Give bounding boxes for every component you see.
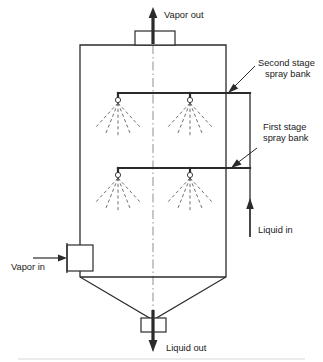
first-stage-spray-fan-1 (95, 178, 141, 211)
spray-tower-schematic: Vapor out Liquid out Vapor in Liquid in (0, 0, 323, 362)
liquid-out-arrow-head (149, 340, 158, 352)
liquid-out-label: Liquid out (166, 343, 207, 353)
liquid-in-label: Liquid in (258, 225, 293, 235)
vapor-in-label: Vapor in (11, 262, 45, 272)
second-stage-spray-fan-2 (167, 103, 213, 136)
first-stage-spray-nozzle-1 (115, 172, 120, 177)
second-stage-spray-nozzle-2 (187, 97, 192, 102)
spray-tower-diagram: Vapor out Liquid out Vapor in Liquid in (0, 0, 323, 362)
second-stage-label-line2: spray bank (265, 69, 311, 79)
vapor-in-arrow-head (58, 254, 67, 261)
second-stage-leader-line (232, 66, 255, 89)
first-stage-spray-nozzle-2 (187, 172, 192, 177)
first-stage-label-line2: spray bank (263, 133, 309, 143)
second-stage-leader-arrow (228, 84, 238, 93)
first-stage-leader-line (236, 148, 257, 164)
second-stage-label-line1: Second stage (258, 58, 315, 68)
second-stage-spray-fan-1 (95, 103, 141, 136)
liquid-in-arrow-head (246, 198, 254, 209)
vapor-outlet-nozzle (135, 31, 175, 45)
second-stage-spray-nozzle-1 (115, 97, 120, 102)
first-stage-spray-fan-2 (167, 178, 213, 211)
vapor-out-label: Vapor out (164, 10, 204, 20)
first-stage-label-line1: First stage (263, 122, 306, 132)
vapor-inlet-nozzle (67, 245, 93, 271)
vapor-out-arrow-head (149, 7, 158, 18)
